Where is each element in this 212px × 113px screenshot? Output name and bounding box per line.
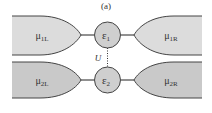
quantum-dot-2: ε2 — [95, 67, 121, 93]
lead-1-left: μ1L — [12, 16, 81, 55]
coupling-label: U — [95, 53, 102, 63]
double-quantum-dot-diagram: (a) μ1L μ1R μ2L μ2R U ε1 ε2 — [0, 0, 212, 113]
quantum-dot-1: ε1 — [95, 22, 121, 48]
panel-label: (a) — [101, 1, 111, 11]
lead-2-left: μ2L — [12, 62, 81, 98]
lead-1-right: μ1R — [134, 16, 202, 55]
lead-2-right: μ2R — [134, 62, 202, 98]
